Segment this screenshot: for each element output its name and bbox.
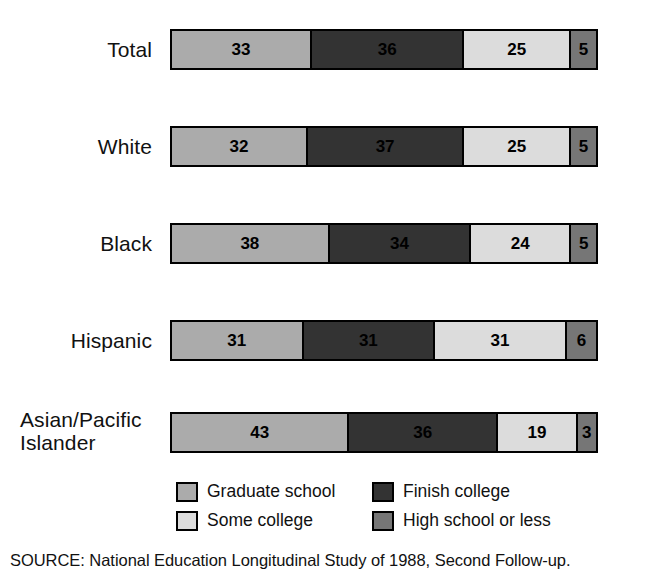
row-label-line: Islander bbox=[20, 431, 166, 454]
segment-graduate-school: 32 bbox=[172, 128, 308, 165]
bar-row-white: White 32 37 25 5 bbox=[0, 126, 650, 170]
segment-value: 43 bbox=[250, 423, 269, 443]
row-label-line: Black bbox=[0, 232, 152, 255]
segment-graduate-school: 38 bbox=[172, 225, 330, 262]
segment-graduate-school: 31 bbox=[172, 322, 304, 359]
row-label-hispanic: Hispanic bbox=[0, 329, 152, 352]
segment-value: 38 bbox=[240, 234, 259, 254]
legend-label: Graduate school bbox=[207, 481, 335, 502]
bar-row-hispanic: Hispanic 31 31 31 6 bbox=[0, 320, 650, 364]
source-note: SOURCE: National Education Longitudinal … bbox=[10, 551, 571, 570]
segment-graduate-school: 33 bbox=[172, 31, 312, 68]
segment-some-college: 19 bbox=[498, 414, 577, 451]
segment-high-school-or-less: 6 bbox=[567, 322, 596, 359]
legend-row: Graduate school Finish college bbox=[176, 477, 576, 506]
row-label-asian-pacific-islander: Asian/Pacific Islander bbox=[20, 408, 166, 454]
segment-value: 37 bbox=[376, 137, 395, 157]
legend-item-high-school-or-less: High school or less bbox=[372, 510, 551, 531]
segment-high-school-or-less: 5 bbox=[571, 31, 596, 68]
legend-label: Finish college bbox=[403, 481, 510, 502]
bar-black: 38 34 24 5 bbox=[170, 223, 598, 264]
segment-finish-college: 36 bbox=[349, 414, 498, 451]
segment-finish-college: 31 bbox=[304, 322, 436, 359]
legend-row: Some college High school or less bbox=[176, 506, 576, 535]
legend-item-some-college: Some college bbox=[176, 510, 372, 531]
segment-value: 36 bbox=[413, 423, 432, 443]
segment-value: 36 bbox=[378, 40, 397, 60]
segment-value: 34 bbox=[390, 234, 409, 254]
segment-value: 19 bbox=[527, 423, 546, 443]
legend-swatch-high-school-or-less-icon bbox=[372, 511, 394, 531]
bar-row-black: Black 38 34 24 5 bbox=[0, 223, 650, 267]
segment-value: 25 bbox=[507, 137, 526, 157]
bar-total: 33 36 25 5 bbox=[170, 29, 598, 70]
legend-label: Some college bbox=[207, 510, 313, 531]
legend-swatch-graduate-school-icon bbox=[176, 482, 198, 502]
row-label-white: White bbox=[0, 135, 152, 158]
row-label-total: Total bbox=[0, 38, 152, 61]
segment-value: 5 bbox=[579, 40, 588, 60]
bar-row-total: Total 33 36 25 5 bbox=[0, 29, 650, 73]
bar-hispanic: 31 31 31 6 bbox=[170, 320, 598, 361]
segment-value: 5 bbox=[579, 234, 588, 254]
segment-finish-college: 36 bbox=[312, 31, 464, 68]
legend-item-graduate-school: Graduate school bbox=[176, 481, 372, 502]
segment-some-college: 25 bbox=[464, 128, 571, 165]
row-label-line: Hispanic bbox=[0, 329, 152, 352]
stacked-bar-chart: Total 33 36 25 5 White 32 37 bbox=[0, 0, 650, 585]
bar-row-asian-pacific-islander: Asian/Pacific Islander 43 36 19 3 bbox=[0, 412, 650, 456]
row-label-black: Black bbox=[0, 232, 152, 255]
segment-high-school-or-less: 5 bbox=[571, 128, 596, 165]
segment-some-college: 25 bbox=[464, 31, 571, 68]
legend-label: High school or less bbox=[403, 510, 551, 531]
row-label-line: Asian/Pacific bbox=[20, 408, 166, 431]
segment-value: 31 bbox=[227, 331, 246, 351]
segment-value: 5 bbox=[579, 137, 588, 157]
row-label-line: Total bbox=[0, 38, 152, 61]
legend-swatch-some-college-icon bbox=[176, 511, 198, 531]
bar-asian-pacific-islander: 43 36 19 3 bbox=[170, 412, 598, 453]
segment-high-school-or-less: 3 bbox=[578, 414, 596, 451]
row-label-line: White bbox=[0, 135, 152, 158]
segment-value: 25 bbox=[507, 40, 526, 60]
segment-value: 31 bbox=[359, 331, 378, 351]
segment-value: 32 bbox=[229, 137, 248, 157]
segment-some-college: 24 bbox=[471, 225, 571, 262]
chart-legend: Graduate school Finish college Some coll… bbox=[176, 477, 576, 535]
bar-white: 32 37 25 5 bbox=[170, 126, 598, 167]
legend-item-finish-college: Finish college bbox=[372, 481, 510, 502]
segment-value: 3 bbox=[582, 423, 591, 443]
segment-some-college: 31 bbox=[435, 322, 567, 359]
segment-value: 33 bbox=[232, 40, 251, 60]
segment-finish-college: 37 bbox=[308, 128, 465, 165]
segment-finish-college: 34 bbox=[330, 225, 471, 262]
segment-value: 24 bbox=[511, 234, 530, 254]
segment-value: 6 bbox=[577, 331, 586, 351]
segment-value: 31 bbox=[490, 331, 509, 351]
segment-graduate-school: 43 bbox=[172, 414, 349, 451]
legend-swatch-finish-college-icon bbox=[372, 482, 394, 502]
segment-high-school-or-less: 5 bbox=[571, 225, 596, 262]
